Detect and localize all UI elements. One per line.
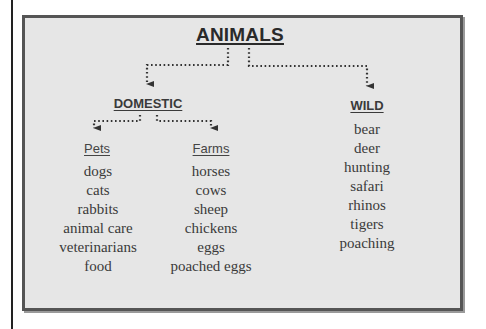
list-item: deer bbox=[340, 139, 395, 158]
list-item: rhinos bbox=[340, 196, 395, 215]
list-item: animal care bbox=[59, 219, 136, 238]
list-item: poaching bbox=[340, 234, 395, 253]
pets-item-list: dogs cats rabbits animal care veterinari… bbox=[59, 162, 136, 276]
list-item: hunting bbox=[340, 158, 395, 177]
list-item: tigers bbox=[340, 215, 395, 234]
list-item: bear bbox=[340, 120, 395, 139]
list-item: safari bbox=[340, 177, 395, 196]
wild-item-list: bear deer hunting safari rhinos tigers p… bbox=[340, 120, 395, 253]
list-item: poached eggs bbox=[170, 257, 251, 276]
list-item: dogs bbox=[59, 162, 136, 181]
list-item: eggs bbox=[170, 238, 251, 257]
list-item: cats bbox=[59, 181, 136, 200]
list-item: cows bbox=[170, 181, 251, 200]
list-item: sheep bbox=[170, 200, 251, 219]
list-item: food bbox=[59, 257, 136, 276]
list-item: chickens bbox=[170, 219, 251, 238]
subcategory-pets: Pets bbox=[84, 141, 110, 156]
list-item: rabbits bbox=[59, 200, 136, 219]
category-domestic: DOMESTIC bbox=[114, 96, 183, 111]
list-item: veterinarians bbox=[59, 238, 136, 257]
list-item: horses bbox=[170, 162, 251, 181]
root-node-animals: ANIMALS bbox=[196, 24, 284, 46]
subcategory-farms: Farms bbox=[193, 141, 230, 156]
farms-item-list: horses cows sheep chickens eggs poached … bbox=[170, 162, 251, 276]
category-wild: WILD bbox=[350, 98, 383, 113]
page-margin-rule bbox=[11, 0, 13, 329]
